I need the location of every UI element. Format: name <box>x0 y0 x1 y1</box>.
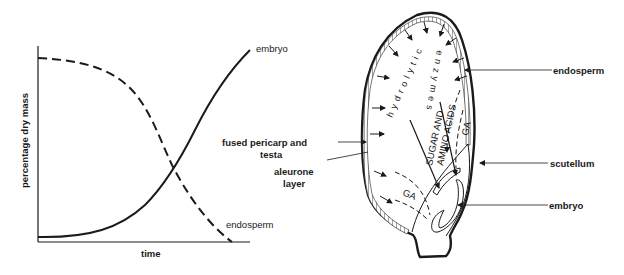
aleurone-callout-line1: aleurone <box>274 166 314 177</box>
dry-mass-graph: embryo endosperm time percentage dry mas… <box>19 43 288 259</box>
endosperm-curve-label: endosperm <box>226 219 274 230</box>
embryo-curve-label: embryo <box>256 43 288 54</box>
y-axis-label: percentage dry mass <box>19 93 30 188</box>
embryo-callout: embryo <box>549 200 584 211</box>
embryo-curve <box>38 50 250 237</box>
aleurone-callout-line2: layer <box>283 178 305 189</box>
pericarp-callout-line1: fused pericarp and <box>222 137 307 148</box>
diagram-canvas: embryo endosperm time percentage dry mas… <box>0 0 624 275</box>
endosperm-callout: endosperm <box>553 65 604 76</box>
x-axis-label: time <box>141 248 161 259</box>
pericarp-callout-line2: testa <box>260 149 283 160</box>
scutellum-callout: scutellum <box>550 158 594 169</box>
